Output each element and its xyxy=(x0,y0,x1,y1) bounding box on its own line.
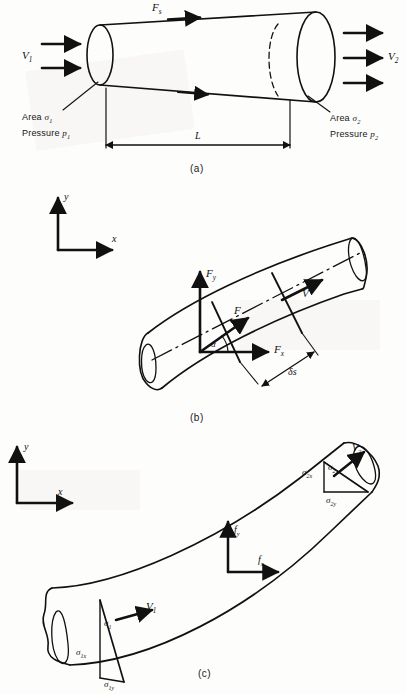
tube-left-endcap-ellipse xyxy=(142,344,157,383)
label-length: L xyxy=(195,131,201,141)
label-inlet-velocity: V1 xyxy=(22,50,32,64)
element-length-extension-a xyxy=(240,362,258,384)
label-body-force-x: fx xyxy=(258,555,264,568)
label-area-2: σ2 xyxy=(328,463,335,475)
label-area-1: σ1 xyxy=(104,619,111,631)
label-axis-y: y xyxy=(64,192,68,202)
caption-panel-a: (a) xyxy=(190,163,204,174)
inlet-label-leader xyxy=(63,82,98,110)
label-outlet-velocity: V2 xyxy=(352,443,361,456)
label-area-2x: σ2x xyxy=(302,468,312,480)
caption-panel-c: (c) xyxy=(198,668,211,679)
tube-upper-wall xyxy=(148,238,352,333)
tube-top-edge xyxy=(100,12,316,25)
label-area-2y: σ2y xyxy=(326,496,336,508)
panel-a-linework xyxy=(42,12,382,148)
label-velocity: V xyxy=(302,288,309,299)
label-outlet-velocity: V2 xyxy=(388,51,398,65)
label-element-length: δs xyxy=(288,367,297,377)
label-area-2: Area σ2 xyxy=(330,113,361,125)
angle-alpha-arc xyxy=(222,336,228,352)
label-axis-x: x xyxy=(112,234,116,244)
outlet-face-ellipse xyxy=(297,12,335,102)
element-length-extension-b xyxy=(302,333,318,355)
tube-left-endcap xyxy=(139,333,162,390)
inlet-section-line xyxy=(100,600,124,682)
label-body-force-y: fy xyxy=(234,525,240,538)
panel-c-axes xyxy=(17,447,72,503)
label-angle-alpha: α xyxy=(211,340,216,349)
tube-left-endcap-ellipse xyxy=(52,611,69,664)
outlet-hidden-edge xyxy=(269,24,278,96)
element-cut-downstream xyxy=(272,273,302,333)
label-force-y: Fy xyxy=(206,268,216,282)
panel-c-linework xyxy=(43,443,379,682)
figure-stream-tube-momentum: Fs V1 V2 Area σ1 Pressure p1 Area σ2 Pre… xyxy=(0,0,406,694)
label-area-1x: σ1x xyxy=(76,648,86,660)
inlet-face-ellipse xyxy=(87,25,113,85)
label-pressure-2: Pressure p2 xyxy=(330,129,378,141)
label-inlet-velocity: V1 xyxy=(146,601,156,615)
label-area-1: Area σ1 xyxy=(22,112,53,124)
label-force-x: Fx xyxy=(274,344,284,358)
label-axis-x: x xyxy=(58,487,62,497)
label-surface-force: Fs xyxy=(152,2,162,16)
figure-linework xyxy=(0,0,406,694)
label-resultant-force: F xyxy=(234,305,241,316)
label-pressure-1: Pressure p1 xyxy=(22,128,70,140)
caption-panel-b: (b) xyxy=(190,412,204,423)
panel-b-axes xyxy=(58,198,112,250)
outlet-label-leader xyxy=(308,96,330,112)
label-area-1y: σ1y xyxy=(104,680,114,692)
tube-centerline xyxy=(152,253,360,360)
outlet-velocity-arrow xyxy=(334,452,364,476)
label-axis-y: y xyxy=(24,442,28,452)
panel-b-linework xyxy=(139,238,367,390)
tube-upper-wall xyxy=(52,443,344,588)
tube-lower-wall xyxy=(70,492,372,665)
tube-right-endcap-ellipse xyxy=(349,238,367,281)
